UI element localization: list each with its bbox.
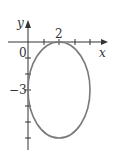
y-tick-label-minus-3: −3: [9, 84, 27, 96]
x-axis-arrow-icon: [101, 39, 108, 45]
ellipse-curve: [28, 42, 90, 138]
x-axis-label: x: [99, 47, 106, 59]
y-axis-arrow-icon: [25, 20, 31, 28]
y-axis-label: y: [17, 17, 24, 29]
x-tick-label-2: 2: [55, 28, 63, 40]
origin-label: 0: [19, 47, 27, 59]
